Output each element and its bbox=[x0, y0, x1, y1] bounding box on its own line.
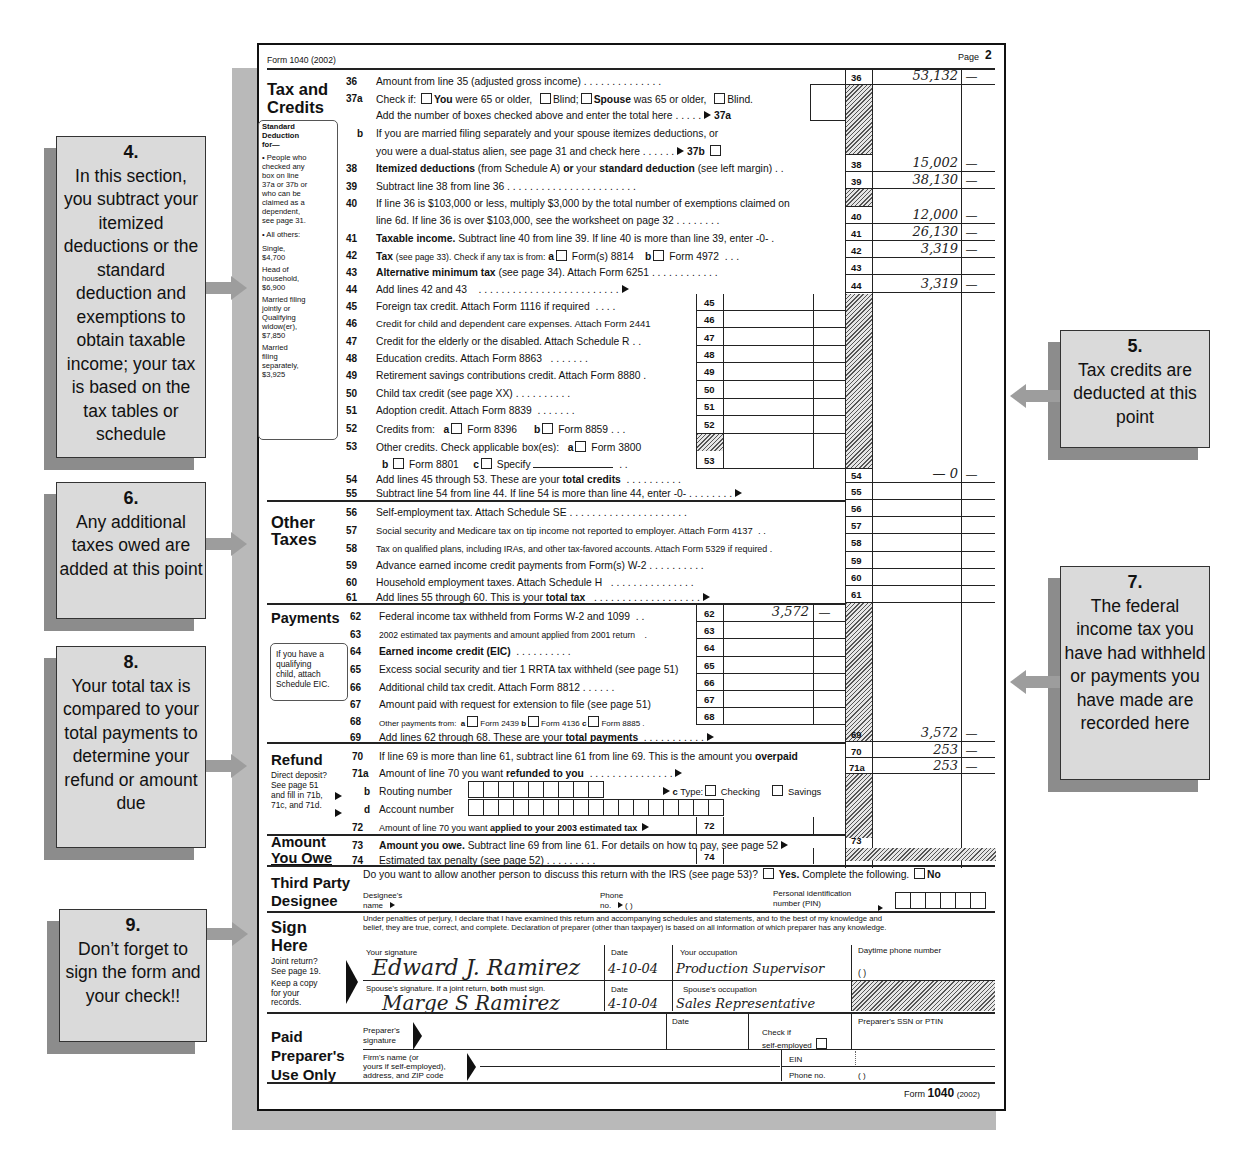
arrow-icon bbox=[622, 285, 629, 293]
checkbox-form-2439[interactable] bbox=[467, 716, 478, 727]
designee-pin-input[interactable] bbox=[896, 892, 986, 909]
line-54-amount[interactable]: — 0 bbox=[874, 467, 958, 481]
designee-name-field[interactable] bbox=[420, 893, 595, 909]
line-66-text: Additional child tax credit. Attach Form… bbox=[379, 682, 614, 694]
routing-number-input[interactable] bbox=[469, 781, 604, 798]
line-71a-cents[interactable]: — bbox=[966, 760, 977, 772]
checkbox-form-8814[interactable] bbox=[556, 250, 567, 261]
line-40-amount[interactable]: 12,000 bbox=[874, 208, 958, 222]
checkbox-form-8859[interactable] bbox=[542, 423, 553, 434]
line-39-amount[interactable]: 38,130 bbox=[874, 173, 958, 187]
line-36-amount[interactable]: 53,132 bbox=[874, 69, 958, 83]
account-number-input[interactable] bbox=[469, 799, 724, 816]
daytime-phone-field[interactable]: ( ) bbox=[858, 967, 866, 979]
checkbox-checking[interactable] bbox=[705, 785, 716, 796]
line-64-num: 64 bbox=[350, 646, 361, 658]
line-59-box-num: 59 bbox=[851, 555, 862, 566]
line-70-num: 70 bbox=[352, 751, 363, 763]
checkbox-spouse-65[interactable] bbox=[581, 93, 592, 104]
arrow-icon bbox=[675, 769, 682, 777]
rule bbox=[845, 292, 995, 293]
specify-field[interactable] bbox=[533, 467, 613, 468]
line-62-cents[interactable]: — bbox=[819, 606, 830, 618]
rule bbox=[696, 817, 697, 834]
line-71a-amount[interactable]: 253 bbox=[874, 759, 958, 773]
preparer-signature-field[interactable] bbox=[425, 1016, 665, 1048]
checkbox-form-8885[interactable] bbox=[588, 716, 599, 727]
line-39-cents[interactable]: — bbox=[966, 174, 977, 186]
line-43-text: Alternative minimum tax (see page 34). A… bbox=[376, 267, 718, 279]
spouse-date[interactable]: 4-10-04 bbox=[608, 997, 658, 1011]
line-62-amount[interactable]: 3,572 bbox=[725, 605, 809, 619]
section-rule bbox=[267, 834, 845, 836]
line-40-num: 40 bbox=[346, 198, 357, 210]
checkbox-you-65[interactable] bbox=[421, 93, 432, 104]
line-41-amount[interactable]: 26,130 bbox=[874, 225, 958, 239]
box-37a[interactable] bbox=[810, 84, 846, 121]
line-49-box-num: 49 bbox=[704, 366, 715, 377]
rule bbox=[845, 773, 995, 774]
line-70-cents[interactable]: — bbox=[966, 744, 977, 756]
rule bbox=[845, 154, 872, 155]
line-51-num: 51 bbox=[346, 405, 357, 417]
line-54-cents[interactable]: — bbox=[966, 468, 977, 480]
line-52-box-num: 52 bbox=[704, 419, 715, 430]
checkbox-self-employed[interactable] bbox=[816, 1038, 827, 1049]
rule bbox=[845, 516, 995, 517]
line-40-cents[interactable]: — bbox=[966, 209, 977, 221]
line-55-text: Subtract line 54 from line 44. If line 5… bbox=[376, 488, 742, 500]
line-69-cents[interactable]: — bbox=[966, 727, 977, 739]
hatch-53 bbox=[697, 434, 723, 451]
line-44-amount[interactable]: 3,319 bbox=[874, 277, 958, 291]
callout-9-arrow-icon bbox=[207, 924, 247, 942]
arrow-icon bbox=[663, 787, 670, 795]
section-title-refund: Refund bbox=[271, 750, 323, 769]
rule bbox=[696, 638, 845, 639]
checkbox-third-party-yes[interactable] bbox=[763, 868, 774, 879]
line-38-cents[interactable]: — bbox=[966, 157, 977, 169]
line-42-cents[interactable]: — bbox=[966, 243, 977, 255]
checkbox-37b[interactable] bbox=[710, 145, 721, 156]
spouse-date-label: Date bbox=[611, 985, 628, 994]
line-39-box-num: 39 bbox=[851, 176, 862, 187]
checkbox-form-3800[interactable] bbox=[575, 441, 586, 452]
checkbox-you-blind[interactable] bbox=[540, 93, 551, 104]
line-36-cents[interactable]: — bbox=[966, 70, 977, 82]
checkbox-form-4136[interactable] bbox=[528, 716, 539, 727]
line-70-amount[interactable]: 253 bbox=[874, 743, 958, 757]
rule bbox=[723, 848, 724, 864]
sign-arrow-icon bbox=[346, 960, 358, 1004]
line-57-text: Social security and Medicare tax on tip … bbox=[376, 525, 766, 537]
preparer-phone-field[interactable]: ( ) bbox=[858, 1071, 866, 1080]
line-71b-num: b bbox=[364, 786, 370, 798]
section-title-third-party-1: Third Party bbox=[271, 873, 350, 892]
line-38-amount[interactable]: 15,002 bbox=[874, 156, 958, 170]
line-41-cents[interactable]: — bbox=[966, 226, 977, 238]
line-43-box-num: 43 bbox=[851, 262, 862, 273]
firm-name-field[interactable] bbox=[480, 1050, 780, 1080]
line-56-num: 56 bbox=[346, 507, 357, 519]
arrow-icon bbox=[735, 489, 742, 497]
line-50-num: 50 bbox=[346, 388, 357, 400]
line-68-box-num: 68 bbox=[704, 711, 715, 722]
line-42-amount[interactable]: 3,319 bbox=[874, 242, 958, 256]
line-49-num: 49 bbox=[346, 370, 357, 382]
line-44-cents[interactable]: — bbox=[966, 278, 977, 290]
line-69-amount[interactable]: 3,572 bbox=[874, 726, 958, 740]
your-occupation-label: Your occupation bbox=[680, 948, 737, 957]
checkbox-specify[interactable] bbox=[481, 458, 492, 469]
your-occupation[interactable]: Production Supervisor bbox=[676, 962, 824, 976]
your-date[interactable]: 4-10-04 bbox=[608, 962, 658, 976]
section-title-amount-owe-1: Amount bbox=[271, 834, 326, 850]
your-signature[interactable]: Edward J. Ramirez bbox=[372, 956, 580, 980]
checkbox-spouse-blind[interactable] bbox=[714, 93, 725, 104]
checkbox-form-8396[interactable] bbox=[451, 423, 462, 434]
section-title-payments: Payments bbox=[271, 609, 340, 628]
checkbox-form-4972[interactable] bbox=[653, 250, 664, 261]
checkbox-form-8801[interactable] bbox=[393, 458, 404, 469]
rule bbox=[696, 433, 845, 434]
rule bbox=[696, 310, 845, 311]
checkbox-third-party-no[interactable] bbox=[914, 868, 925, 879]
checkbox-savings[interactable] bbox=[772, 785, 783, 796]
spouse-occupation[interactable]: Sales Representative bbox=[676, 997, 815, 1011]
